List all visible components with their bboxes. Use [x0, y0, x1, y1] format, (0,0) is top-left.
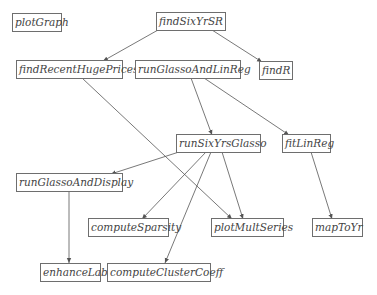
edge-fitLinReg-mapToYr [311, 152, 332, 219]
edge-runSixYrsGlasso-plotMultSeries [222, 152, 243, 219]
node-findR[interactable]: findR [259, 61, 293, 80]
node-enhanceLab[interactable]: enhanceLab [40, 263, 101, 282]
node-runGlassoAndDisplay[interactable]: runGlassoAndDisplay [16, 173, 123, 192]
node-findRecentHugePrices[interactable]: findRecentHugePrices [16, 60, 123, 79]
node-computeSparsity[interactable]: computeSparsity [88, 218, 169, 237]
edge-runSixYrsGlasso-computeClusterCoeff [165, 152, 211, 263]
node-computeClusterCoeff[interactable]: computeClusterCoeff [107, 263, 211, 282]
edge-runGlassoAndLinReg-runSixYrsGlasso [191, 78, 212, 135]
node-findSixYrSR[interactable]: findSixYrSR [156, 12, 226, 31]
node-runSixYrsGlasso[interactable]: runSixYrsGlasso [176, 134, 261, 153]
edge-findSixYrSR-findRecentHugePrices [103, 30, 158, 61]
call-graph-diagram: plotGraph findSixYrSR findRecentHugePric… [0, 0, 377, 295]
edge-runGlassoAndLinReg-fitLinReg [204, 78, 289, 135]
node-plotMultSeries[interactable]: plotMultSeries [211, 218, 284, 237]
node-mapToYr[interactable]: mapToYr [312, 218, 363, 237]
node-plotGraph[interactable]: plotGraph [12, 13, 62, 32]
node-runGlassoAndLinReg[interactable]: runGlassoAndLinReg [135, 60, 241, 79]
edge-findSixYrSR-findR [212, 30, 262, 62]
node-fitLinReg[interactable]: fitLinReg [282, 134, 331, 153]
